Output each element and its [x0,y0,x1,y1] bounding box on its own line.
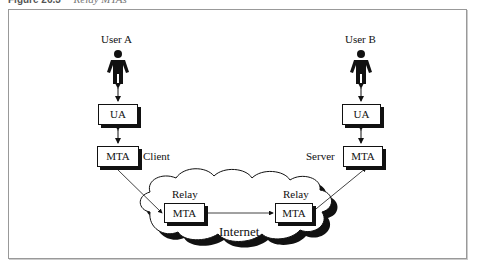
user-b-person-icon [350,50,372,84]
user-b-ua-box: UA [342,104,381,125]
server-mta-box: MTA [343,146,383,167]
mta-label: MTA [282,207,306,219]
ua-label: UA [110,108,126,120]
server-label: Server [306,150,335,162]
mta-label: MTA [106,150,130,162]
client-mta-box: MTA [97,146,139,167]
client-label: Client [143,150,170,162]
relay-1-mta-box: MTA [164,203,205,223]
relay-2-label: Relay [283,188,309,200]
mta-label: MTA [351,150,375,162]
user-a-label: User A [101,33,132,45]
user-b-label: User B [345,33,376,45]
user-a-ua-box: UA [98,104,138,125]
relay-2-mta-box: MTA [275,203,313,223]
user-a-person-icon [107,50,129,84]
relay-1-label: Relay [172,188,198,200]
ua-label: UA [354,108,370,120]
internet-label: Internet [219,224,259,240]
mta-label: MTA [173,207,197,219]
